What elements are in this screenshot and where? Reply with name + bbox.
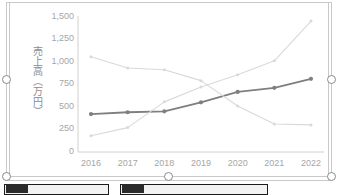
series-layer [89,20,313,138]
data-point-marker [90,134,93,137]
data-point-marker [126,110,130,114]
bottom-bar-swatch-0 [6,184,28,193]
object-frame-right-inner [331,2,332,180]
y-tick-label: 750 [32,78,74,88]
data-point-marker [90,55,93,58]
data-point-marker [89,112,93,116]
x-tick-label: 2022 [293,158,329,168]
selection-handle-bottom-left[interactable] [2,172,11,181]
y-tick-label: 1,500 [32,11,74,21]
data-point-marker [200,79,203,82]
y-tick-label: 1,000 [32,56,74,66]
data-point-marker [273,123,276,126]
object-frame-left [6,2,7,180]
data-point-marker [272,86,276,90]
x-tick-label: 2021 [256,158,292,168]
series-line [91,79,311,114]
data-point-marker [162,109,166,113]
selection-handle-left-middle[interactable] [2,75,11,84]
data-point-marker [310,20,313,23]
data-point-marker [273,59,276,62]
selection-handle-right-middle[interactable] [327,75,336,84]
data-point-marker [236,104,239,107]
series-series-dark [89,77,313,116]
y-tick-label: 250 [32,123,74,133]
series-series-light-declining [90,55,313,126]
data-point-marker [310,123,313,126]
series-line [91,21,311,136]
x-tick-label: 2017 [110,158,146,168]
object-frame-right [328,2,329,180]
x-tick-label: 2016 [73,158,109,168]
x-tick-label: 2019 [183,158,219,168]
y-tick-label: 0 [32,146,74,156]
bottom-bar-item-0[interactable] [4,184,109,195]
data-point-marker [126,66,129,69]
x-tick-label: 2018 [146,158,182,168]
y-tick-label: 500 [32,101,74,111]
data-point-marker [126,126,129,129]
object-frame-left-inner [9,2,10,180]
chart-object[interactable]: 売上高（万円） 02505007501,0001,2501,500 201620… [6,2,334,180]
data-point-marker [163,100,166,103]
series-line [91,57,311,125]
data-point-marker [163,68,166,71]
data-point-marker [200,85,203,88]
object-frame-top [6,2,332,3]
selection-handle-bottom-right[interactable] [327,172,336,181]
x-tick-label: 2020 [220,158,256,168]
bottom-bar-item-1[interactable] [120,184,268,195]
y-tick-label: 1,250 [32,33,74,43]
data-point-marker [309,77,313,81]
data-point-marker [236,73,239,76]
data-point-marker [199,100,203,104]
data-point-marker [236,90,240,94]
selection-handle-bottom-center[interactable] [164,172,173,181]
bottom-bar-swatch-1 [122,184,144,193]
series-series-light-rising [90,20,313,138]
